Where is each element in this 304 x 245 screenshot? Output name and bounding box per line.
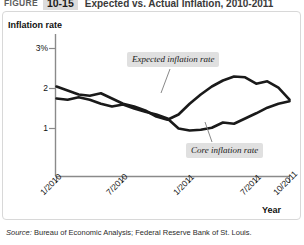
y-axis-title-line1: Inflation rate xyxy=(8,20,62,30)
y-tick-label-3: 3% xyxy=(24,43,48,53)
leader-line-core xyxy=(205,122,212,142)
annotation-expected-inflation-rate: Expected inflation rate xyxy=(127,52,219,67)
source-note: Source: Bureau of Economic Analysis; Fed… xyxy=(6,228,252,237)
y-axis-title: Inflation rate xyxy=(8,20,62,30)
figure-container: FIGURE 10-15 Expected vs. Actual Inflati… xyxy=(0,0,304,245)
source-label: Source: xyxy=(6,228,32,237)
x-axis-title: Year xyxy=(262,205,281,215)
y-tick-label-1: 1 xyxy=(24,123,48,133)
source-text: Bureau of Economic Analysis; Federal Res… xyxy=(34,228,252,237)
y-tick-label-2: 2 xyxy=(24,83,48,93)
series-line-core-inflation-rate xyxy=(57,97,290,130)
plot-area: Inflation rate 3% 2 1 1/2010 7/2010 1/20… xyxy=(0,0,304,215)
leader-line-expected xyxy=(161,69,170,93)
annotation-core-inflation-rate: Core inflation rate xyxy=(186,143,263,158)
